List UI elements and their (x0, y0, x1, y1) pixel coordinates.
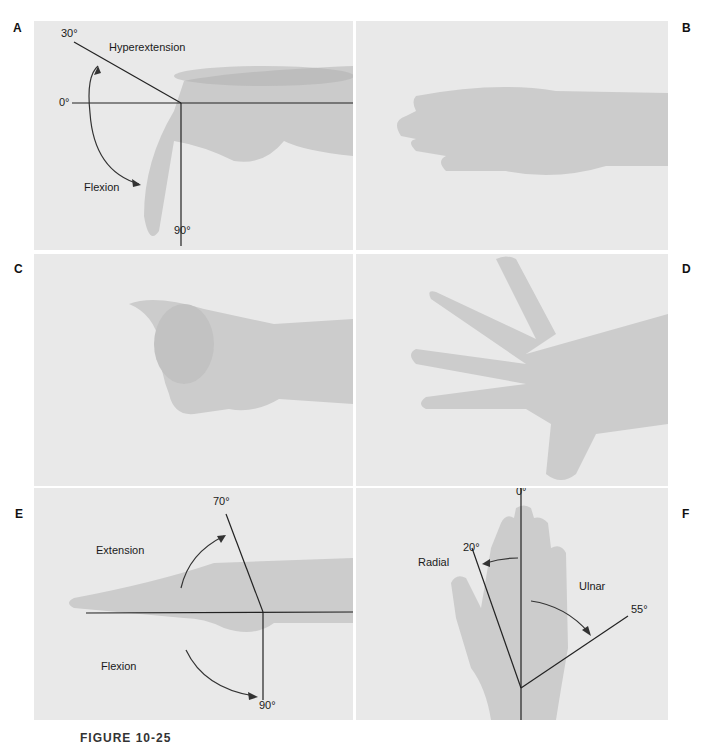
panel-d-spread-fingers (356, 254, 668, 486)
angle-label-55: 55° (631, 603, 648, 615)
panel-b-illustration (356, 21, 668, 250)
angle-label-90: 90° (259, 699, 276, 711)
ulnar-label: Ulnar (579, 580, 605, 592)
panel-e-extension-flexion: 70° Extension Flexion 90° (34, 488, 353, 720)
flexion-label: Flexion (84, 181, 119, 193)
panel-a-wrist-hyperextension-flexion: 30° Hyperextension 0° Flexion 90° (34, 21, 353, 250)
figure-caption: FIGURE 10-25 (80, 731, 171, 745)
panel-f-radial-ulnar-deviation: 0° 20° Radial Ulnar 55° (356, 488, 668, 720)
panel-f-illustration (356, 488, 668, 720)
angle-label-0: 0° (59, 96, 70, 108)
panel-b-open-palm (356, 21, 668, 250)
panel-label-c: C (14, 262, 23, 276)
flexion-label: Flexion (101, 660, 136, 672)
panel-label-e: E (15, 507, 23, 521)
angle-label-70: 70° (213, 495, 230, 507)
panel-c-fist (34, 254, 353, 486)
hyperextension-label: Hyperextension (109, 41, 185, 53)
angle-label-30: 30° (61, 27, 78, 39)
panel-label-a: A (13, 21, 22, 35)
panel-label-d: D (682, 262, 691, 276)
panel-label-b: B (682, 21, 691, 35)
panel-label-f: F (682, 507, 689, 521)
angle-label-20: 20° (463, 541, 480, 553)
panel-a-illustration (34, 21, 353, 250)
panel-e-illustration (34, 488, 353, 720)
radial-label: Radial (418, 556, 449, 568)
extension-label: Extension (96, 544, 144, 556)
angle-label-90: 90° (174, 224, 191, 236)
angle-label-0: 0° (516, 488, 527, 497)
panel-d-illustration (356, 254, 668, 486)
panel-c-illustration (34, 254, 353, 486)
